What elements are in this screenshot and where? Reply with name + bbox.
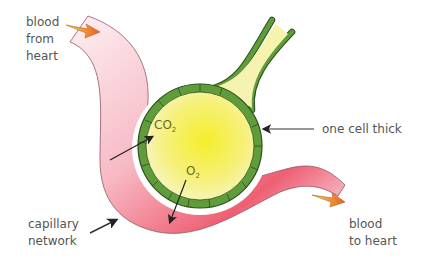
label-blood-from-heart: blood from heart (26, 14, 59, 65)
label-o2: O2 (186, 164, 200, 180)
diagram-canvas: blood from heart one cell thick capillar… (0, 0, 427, 262)
label-co2: CO2 (154, 118, 176, 134)
label-capillary-network: capillary network (28, 216, 79, 250)
label-one-cell-thick: one cell thick (322, 121, 402, 138)
blood-out-flow-arrow (312, 193, 345, 207)
alveolus-air-space (146, 92, 254, 200)
label-blood-to-heart: blood to heart (349, 216, 397, 250)
co2-base: CO (154, 118, 172, 132)
capillary-network-pointer (90, 220, 116, 233)
co2-subscript: 2 (172, 126, 176, 134)
o2-subscript: 2 (195, 172, 199, 180)
